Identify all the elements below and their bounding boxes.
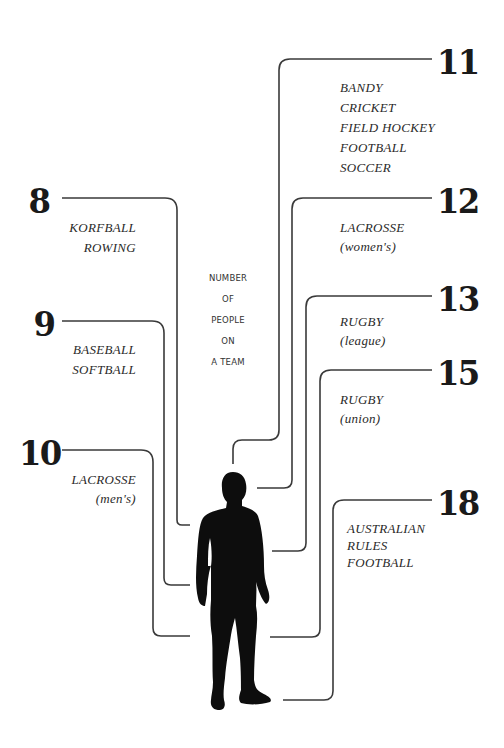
sport-label: RUGBY [340,312,386,332]
sport-label: ROWING [40,238,136,258]
sport-label: FIELD HOCKEY [340,118,435,138]
sport-label: BASEBALL [40,340,136,360]
sport-label: FOOTBALL [347,554,425,571]
sport-label: (union) [340,410,383,428]
sport-label: LACROSSE [340,218,405,238]
team-count-15: 15 [437,356,478,390]
sports-list-15: RUGBY (union) [340,390,383,428]
sport-label: AUSTRALIAN [347,520,425,537]
title-line: A TEAM [196,352,260,373]
team-count-9: 9 [34,307,55,341]
sport-label: (women's) [340,238,405,256]
sport-label: (men's) [40,490,136,508]
sport-label: SOFTBALL [40,360,136,380]
team-count-18: 18 [437,486,478,520]
sport-label: (league) [340,332,386,350]
team-count-8: 8 [29,184,50,218]
sports-list-8: KORFBALL ROWING [40,218,136,258]
team-count-13: 13 [437,282,478,316]
title-line: OF [196,289,260,310]
title-line: ON [196,331,260,352]
sports-list-9: BASEBALL SOFTBALL [40,340,136,380]
team-count-11: 11 [437,45,478,79]
sport-label: KORFBALL [40,218,136,238]
sport-label: RULES [347,537,425,554]
team-count-12: 12 [437,184,478,218]
sports-list-10: LACROSSE (men's) [40,470,136,508]
sport-label: FOOTBALL [340,138,435,158]
sport-label: LACROSSE [40,470,136,490]
sports-list-11: BANDY CRICKET FIELD HOCKEY FOOTBALL SOCC… [340,78,435,178]
sports-list-13: RUGBY (league) [340,312,386,350]
sport-label: CRICKET [340,98,435,118]
sports-list-12: LACROSSE (women's) [340,218,405,256]
team-count-10: 10 [19,436,60,470]
chart-title: NUMBER OF PEOPLE ON A TEAM [196,268,260,373]
sport-label: BANDY [340,78,435,98]
sport-label: SOCCER [340,158,435,178]
title-line: NUMBER [196,268,260,289]
sports-list-18: AUSTRALIAN RULES FOOTBALL [347,520,425,571]
sport-label: RUGBY [340,390,383,410]
title-line: PEOPLE [196,310,260,331]
